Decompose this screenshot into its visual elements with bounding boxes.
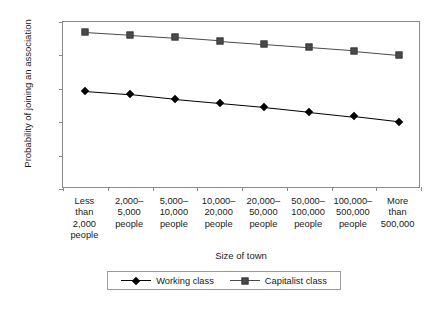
data-point <box>220 103 226 109</box>
data-point <box>130 94 136 100</box>
plot-area <box>62 21 420 188</box>
series-line-segment <box>130 94 175 100</box>
y-tick-mark <box>59 156 63 157</box>
x-category-label: 2,000–5,000people <box>107 196 152 252</box>
x-category-label: Morethan500,000 <box>375 196 420 252</box>
x-tick-mark <box>287 187 288 191</box>
x-tick-mark <box>376 187 377 191</box>
x-category-label: 50,000–100,000people <box>286 196 331 252</box>
data-point <box>354 51 361 58</box>
x-tick-mark <box>332 187 333 191</box>
data-point <box>264 44 271 51</box>
data-point <box>264 107 270 113</box>
series-line-segment <box>175 99 220 104</box>
series-line-segment <box>220 103 265 108</box>
x-tick-mark <box>421 187 422 191</box>
x-axis-title: Size of town <box>62 250 420 261</box>
data-point <box>309 47 316 54</box>
square-marker-icon <box>230 276 260 286</box>
chart-container: Probability of joining an association 0.… <box>0 0 433 310</box>
data-point <box>175 37 182 44</box>
x-tick-mark <box>108 187 109 191</box>
x-category-label: 20,000–50,000people <box>241 196 286 252</box>
data-point <box>309 112 315 118</box>
diamond-marker-icon <box>121 276 151 286</box>
y-tick-mark <box>59 122 63 123</box>
series-line-segment <box>264 107 309 113</box>
data-point <box>220 41 227 48</box>
data-point <box>85 32 92 39</box>
data-point <box>85 91 91 97</box>
data-point <box>399 55 406 62</box>
legend-label: Capitalist class <box>265 276 327 286</box>
x-category-label: 10,000–20,000people <box>196 196 241 252</box>
legend-item-working-class: Working class <box>121 276 214 286</box>
series-line-segment <box>354 116 399 122</box>
x-axis-labels: Lessthan2,000people2,000–5,000people5,00… <box>62 196 420 252</box>
x-tick-mark <box>63 187 64 191</box>
x-tick-mark <box>197 187 198 191</box>
legend-item-capitalist-class: Capitalist class <box>230 276 327 286</box>
y-tick-mark <box>59 55 63 56</box>
data-point <box>175 99 181 105</box>
x-tick-mark <box>242 187 243 191</box>
x-tick-mark <box>153 187 154 191</box>
data-point <box>399 122 405 128</box>
y-axis-title: Probability of joining an association <box>22 0 33 189</box>
y-tick-mark <box>59 22 63 23</box>
series-line-segment <box>85 91 130 95</box>
series-line-segment <box>309 112 354 118</box>
data-point <box>354 116 360 122</box>
chart-legend: Working class Capitalist class <box>107 271 341 290</box>
legend-label: Working class <box>156 276 214 286</box>
x-category-label: 100,000–500,000people <box>331 196 376 252</box>
plot-inner <box>63 22 419 187</box>
x-category-label: Lessthan2,000people <box>62 196 107 252</box>
y-tick-mark <box>59 89 63 90</box>
x-category-label: 5,000–10,000people <box>152 196 197 252</box>
data-point <box>130 35 137 42</box>
